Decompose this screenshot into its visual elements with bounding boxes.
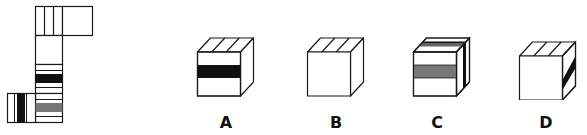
option-b-label: B <box>326 113 346 132</box>
option-b-cube[interactable] <box>305 34 375 100</box>
option-a-cube[interactable] <box>195 34 265 100</box>
cube-net-drawing <box>0 0 100 130</box>
cube-net <box>0 0 100 130</box>
option-d-label: D <box>536 113 556 132</box>
option-c-cube[interactable] <box>411 34 481 100</box>
option-c-label: C <box>427 113 447 132</box>
net-face-blank-middle <box>36 36 63 65</box>
option-a-label: A <box>216 113 236 132</box>
net-face-blank-right <box>63 7 93 36</box>
net-face-striped <box>36 7 63 36</box>
option-d-cube[interactable] <box>517 34 587 100</box>
